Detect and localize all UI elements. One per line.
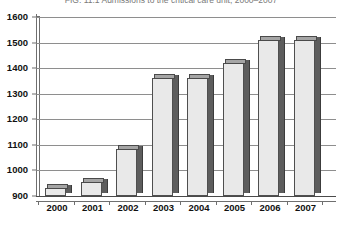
y-axis-tick-label: 1200	[7, 114, 28, 124]
bar-top-face	[260, 36, 281, 41]
figure-container: FIG. 11.1 Admissions to the critical car…	[0, 0, 342, 228]
x-axis-tick-label: 2003	[153, 202, 174, 214]
x-axis-line-back	[36, 196, 336, 197]
y-axis-tick-label: 1100	[7, 140, 28, 150]
bar-front-face	[81, 182, 102, 196]
y-axis-tick	[32, 42, 37, 43]
y-axis-tick-label: 1600	[7, 12, 28, 22]
bar-side-face	[208, 75, 214, 193]
bar-2000	[45, 14, 66, 196]
bar-2001	[81, 14, 102, 196]
bar-side-face	[315, 37, 321, 193]
bar-2005	[223, 14, 244, 196]
bar-front-face	[152, 78, 173, 196]
bar-2006	[258, 14, 279, 196]
y-axis-tick-label: 1300	[7, 89, 28, 99]
y-axis-tick-label: 900	[12, 191, 28, 201]
x-axis-tick-label: 2000	[46, 202, 67, 214]
figure-caption: FIG. 11.1 Admissions to the critical car…	[0, 0, 342, 5]
bar-2003	[152, 14, 173, 196]
y-axis-tick	[32, 144, 37, 145]
bar-front-face	[294, 40, 315, 196]
bar-2004	[187, 14, 208, 196]
bar-top-face	[225, 59, 246, 64]
bar-side-face	[279, 37, 285, 193]
y-axis-tick	[32, 119, 37, 120]
y-axis-tick-label: 1500	[7, 38, 28, 48]
bar-top-face	[118, 145, 139, 150]
bar-front-face	[223, 63, 244, 196]
bar-top-face	[83, 178, 104, 183]
x-axis-tick-label: 2001	[82, 202, 103, 214]
bar-front-face	[258, 40, 279, 196]
bar-front-face	[116, 149, 137, 196]
y-axis-tick-label: 1000	[7, 165, 28, 175]
bar-2002	[116, 14, 137, 196]
y-axis-tick	[32, 68, 37, 69]
bar-side-face	[137, 146, 143, 193]
y-axis-labels: 9001000110012001300140015001600	[0, 0, 34, 228]
x-axis-tick-label: 2006	[259, 202, 280, 214]
x-axis-tick-label: 2007	[295, 202, 316, 214]
bar-top-face	[154, 74, 175, 79]
bar-top-face	[296, 36, 317, 41]
x-axis-tick-label: 2004	[188, 202, 209, 214]
plot-area	[36, 14, 336, 199]
y-axis-tick	[32, 17, 37, 18]
x-axis-labels: 20002001200220032004200520062007	[36, 202, 336, 218]
y-axis-tick	[32, 170, 37, 171]
bar-top-face	[47, 184, 68, 189]
bar-top-face	[189, 74, 210, 79]
bar-2007	[294, 14, 315, 196]
x-axis-tick-label: 2002	[117, 202, 138, 214]
y-axis-tick	[32, 93, 37, 94]
bar-front-face	[187, 78, 208, 196]
y-axis-tick-label: 1400	[7, 63, 28, 73]
bar-front-face	[45, 188, 66, 196]
x-axis-tick-label: 2005	[224, 202, 245, 214]
bar-side-face	[173, 75, 179, 193]
bar-side-face	[244, 60, 250, 193]
